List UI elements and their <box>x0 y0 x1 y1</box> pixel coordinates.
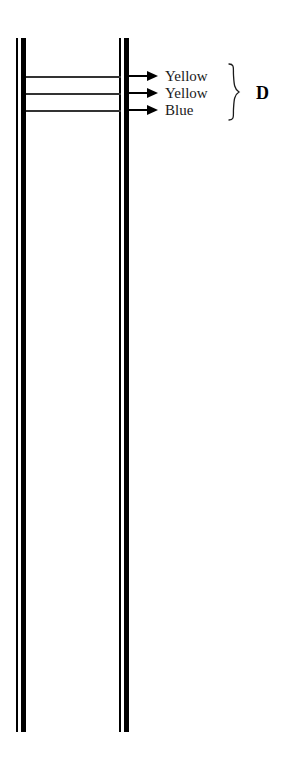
arrow-head <box>147 105 158 115</box>
arrow-right-icon <box>129 88 159 99</box>
left-wall-thin-line <box>16 38 18 732</box>
group-letter-label: D <box>256 83 269 104</box>
right-wall-thick-line <box>124 38 129 732</box>
arrow-head <box>147 71 158 81</box>
column-band <box>26 110 121 112</box>
band-label: Blue <box>165 103 193 118</box>
arrow-shaft <box>129 92 149 94</box>
band-label: Yellow <box>165 69 208 84</box>
right-curly-brace-icon <box>227 63 243 121</box>
left-wall-thick-line <box>21 38 26 732</box>
column-band <box>26 93 121 95</box>
band-label: Yellow <box>165 86 208 101</box>
right-wall-thin-line <box>119 38 121 732</box>
arrow-head <box>147 88 158 98</box>
diagram-canvas: Yellow Yellow Blue D <box>0 0 293 772</box>
arrow-right-icon <box>129 71 159 82</box>
left-column-wall <box>16 38 27 732</box>
arrow-shaft <box>129 109 149 111</box>
arrow-right-icon <box>129 105 159 116</box>
right-column-wall <box>119 38 130 732</box>
column-band <box>26 76 121 78</box>
arrow-shaft <box>129 75 149 77</box>
